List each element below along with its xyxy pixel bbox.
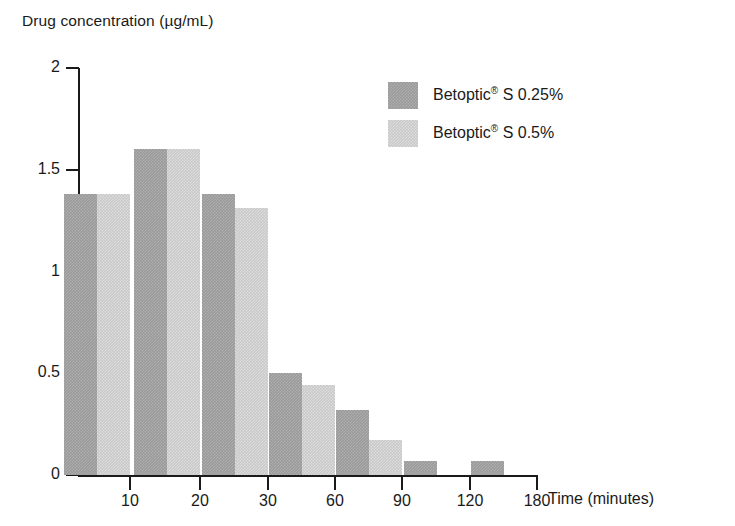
bar-30-series-0 bbox=[202, 194, 235, 475]
y-tick-mark bbox=[66, 169, 79, 171]
y-tick-label: 1 bbox=[2, 263, 60, 279]
bar-120-series-0 bbox=[404, 461, 437, 475]
y-tick-label: 0 bbox=[2, 466, 60, 482]
bar-180-series-0 bbox=[471, 461, 504, 475]
y-tick-label: 0.5 bbox=[2, 364, 60, 380]
y-axis-line bbox=[78, 68, 80, 477]
legend-swatch-icon bbox=[388, 82, 418, 109]
x-tick-mark bbox=[401, 477, 403, 490]
x-axis-title: Time (minutes) bbox=[548, 490, 654, 508]
legend-swatch-icon bbox=[388, 120, 418, 147]
bar-20-series-0 bbox=[134, 149, 167, 475]
y-tick-mark bbox=[66, 271, 79, 273]
x-tick-label: 90 bbox=[372, 492, 432, 510]
y-tick-label-wrap: 0 bbox=[0, 466, 60, 482]
x-tick-mark bbox=[129, 477, 131, 490]
y-tick-label-wrap: 1.5 bbox=[0, 161, 60, 177]
y-tick-mark bbox=[66, 474, 79, 476]
legend-label: Betoptic® S 0.5% bbox=[433, 123, 554, 142]
legend-label: Betoptic® S 0.25% bbox=[433, 85, 563, 104]
y-axis-title: Drug concentration (µg/mL) bbox=[22, 12, 214, 30]
y-tick-mark bbox=[66, 67, 79, 69]
bar-10-series-0 bbox=[64, 194, 97, 475]
bar-60-series-1 bbox=[302, 385, 335, 475]
y-tick-label: 1.5 bbox=[2, 161, 60, 177]
x-tick-label: 30 bbox=[238, 492, 298, 510]
bar-90-series-1 bbox=[369, 440, 402, 475]
legend: Betoptic® S 0.25%Betoptic® S 0.5% bbox=[388, 76, 563, 152]
bar-10-series-1 bbox=[97, 194, 130, 475]
x-tick-mark bbox=[199, 477, 201, 490]
bar-chart: Drug concentration (µg/mL) 00.511.52 102… bbox=[0, 0, 735, 526]
x-tick-mark bbox=[536, 477, 538, 490]
bar-90-series-0 bbox=[336, 410, 369, 475]
y-tick-label-wrap: 1 bbox=[0, 263, 60, 279]
y-tick-label-wrap: 0.5 bbox=[0, 364, 60, 380]
x-tick-mark bbox=[334, 477, 336, 490]
x-tick-mark bbox=[267, 477, 269, 490]
y-tick-label-wrap: 2 bbox=[0, 59, 60, 75]
legend-item[interactable]: Betoptic® S 0.25% bbox=[388, 76, 563, 114]
x-tick-label: 60 bbox=[305, 492, 365, 510]
bar-20-series-1 bbox=[167, 149, 200, 475]
bar-30-series-1 bbox=[235, 208, 268, 475]
legend-item[interactable]: Betoptic® S 0.5% bbox=[388, 114, 563, 152]
x-tick-label: 10 bbox=[100, 492, 160, 510]
bar-60-series-0 bbox=[269, 373, 302, 475]
bars-layer bbox=[0, 0, 735, 526]
y-tick-label: 2 bbox=[2, 59, 60, 75]
y-tick-mark bbox=[66, 372, 79, 374]
x-tick-mark bbox=[469, 477, 471, 490]
x-tick-label: 20 bbox=[170, 492, 230, 510]
x-tick-label: 120 bbox=[440, 492, 500, 510]
